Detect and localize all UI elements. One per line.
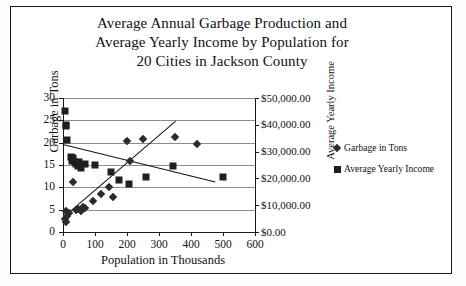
y2-axis-tick — [255, 205, 259, 206]
x-axis-tick — [191, 232, 192, 236]
y-axis-tick-label: 0 — [33, 226, 55, 238]
legend-item: Garbage in Tons — [330, 143, 454, 153]
y2-axis-tick — [255, 98, 259, 99]
data-point — [170, 163, 177, 170]
gridline — [63, 210, 255, 211]
square-marker-icon — [330, 166, 344, 173]
data-point — [108, 168, 115, 175]
y-axis-title: Garbage in Tons — [47, 52, 62, 172]
data-point — [125, 180, 132, 187]
gridline — [63, 187, 255, 188]
gridline — [63, 143, 255, 144]
y2-axis-tick — [255, 152, 259, 153]
chart-title-line-1: Average Annual Garbage Production and — [30, 14, 414, 33]
y2-axis-tick-label: $30,000.00 — [261, 146, 331, 157]
chart-legend: Garbage in TonsAverage Yearly Income — [330, 143, 454, 185]
data-point — [61, 108, 68, 115]
data-point — [64, 136, 71, 143]
gridline — [63, 120, 255, 121]
data-point — [92, 162, 99, 169]
legend-marker — [334, 166, 341, 173]
chart-title: Average Annual Garbage Production and Av… — [30, 14, 414, 71]
x-axis-tick — [159, 232, 160, 236]
y2-axis-line — [255, 98, 256, 232]
x-axis-tick — [63, 232, 64, 236]
y-axis-tick-label: 10 — [33, 181, 55, 193]
y2-axis-tick — [255, 178, 259, 179]
legend-label: Average Yearly Income — [344, 164, 434, 174]
chart-title-line-2: Average Yearly Income by Population for — [30, 33, 414, 52]
legend-marker — [333, 144, 341, 152]
x-axis-tick-label: 600 — [235, 238, 275, 250]
chart-title-line-3: 20 Cities in Jackson County — [30, 52, 414, 71]
y2-axis-tick-label: $50,000.00 — [261, 93, 331, 104]
data-point — [220, 174, 227, 181]
x-axis-tick — [223, 232, 224, 236]
diamond-marker-icon — [330, 145, 344, 151]
y2-axis-tick — [255, 125, 259, 126]
data-point — [82, 160, 89, 167]
legend-label: Garbage in Tons — [344, 143, 407, 153]
data-point — [143, 174, 150, 181]
legend-item: Average Yearly Income — [330, 164, 454, 174]
y-axis-tick-label: 5 — [33, 204, 55, 216]
y2-axis-tick-label: $20,000.00 — [261, 173, 331, 184]
x-axis-tick — [95, 232, 96, 236]
chart-figure: Average Annual Garbage Production and Av… — [0, 0, 466, 286]
x-axis-tick — [255, 232, 256, 236]
data-point — [116, 176, 123, 183]
y2-axis-tick-label: $10,000.00 — [261, 200, 331, 211]
y-axis-tick — [59, 187, 63, 188]
y2-axis-tick-label: $0.00 — [261, 227, 331, 238]
gridline — [63, 98, 255, 99]
x-axis-title: Population in Thousands — [58, 253, 268, 268]
x-axis-tick — [127, 232, 128, 236]
y2-axis-tick-label: $40,000.00 — [261, 119, 331, 130]
plot-area — [63, 98, 255, 232]
data-point — [63, 123, 70, 130]
